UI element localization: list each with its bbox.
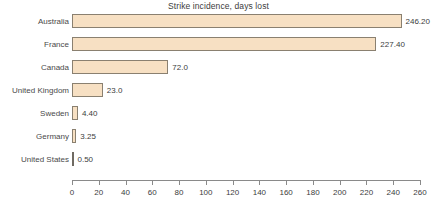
category-label: France — [0, 39, 69, 50]
bar-row: Canada72.0 — [0, 60, 437, 76]
x-axis-tick-label: 180 — [298, 187, 328, 198]
x-axis-tick-label: 20 — [84, 187, 114, 198]
bar-value-label: 246.20 — [406, 16, 430, 27]
x-axis-tick-label: 200 — [325, 187, 355, 198]
bar — [72, 83, 103, 97]
x-axis-tick-label: 0 — [57, 187, 87, 198]
bar — [72, 129, 76, 143]
x-axis-tick — [233, 180, 234, 185]
x-axis-tick — [126, 180, 127, 185]
x-axis-tick-label: 240 — [378, 187, 408, 198]
bar — [72, 106, 78, 120]
x-axis: 020406080100120140160180200220240260 — [0, 180, 437, 206]
x-axis-line — [72, 180, 421, 181]
bar-value-label: 23.0 — [107, 85, 123, 96]
bar-row: France227.40 — [0, 37, 437, 53]
x-axis-tick-label: 140 — [244, 187, 274, 198]
bar-row: Germany3.25 — [0, 129, 437, 145]
x-axis-tick — [313, 180, 314, 185]
x-axis-tick-label: 120 — [218, 187, 248, 198]
x-axis-tick — [206, 180, 207, 185]
bar-row: Sweden4.40 — [0, 106, 437, 122]
bar-row: United States0.50 — [0, 152, 437, 168]
bar-row: Australia246.20 — [0, 14, 437, 30]
x-axis-tick-label: 80 — [164, 187, 194, 198]
chart-title: Strike incidence, days lost — [0, 1, 437, 11]
bar-value-label: 72.0 — [172, 62, 188, 73]
x-axis-tick-label: 160 — [271, 187, 301, 198]
bar-value-label: 0.50 — [78, 154, 94, 165]
x-axis-tick — [179, 180, 180, 185]
category-label: United States — [0, 154, 69, 165]
bar — [72, 37, 376, 51]
x-axis-tick — [259, 180, 260, 185]
x-axis-tick-label: 260 — [405, 187, 435, 198]
bar-chart: Strike incidence, days lost Australia246… — [0, 0, 437, 206]
x-axis-tick-label: 220 — [351, 187, 381, 198]
x-axis-tick — [152, 180, 153, 185]
x-axis-tick — [366, 180, 367, 185]
x-axis-tick — [340, 180, 341, 185]
category-label: Germany — [0, 131, 69, 142]
category-label: Canada — [0, 62, 69, 73]
bar-value-label: 3.25 — [80, 131, 96, 142]
bar — [72, 60, 168, 74]
category-label: Australia — [0, 16, 69, 27]
x-axis-tick — [420, 180, 421, 185]
bar-row: United Kingdom23.0 — [0, 83, 437, 99]
bar — [72, 152, 74, 166]
bar-value-label: 4.40 — [82, 108, 98, 119]
category-label: United Kingdom — [0, 85, 69, 96]
x-axis-tick-label: 40 — [111, 187, 141, 198]
bar-value-label: 227.40 — [380, 39, 404, 50]
bar — [72, 14, 402, 28]
x-axis-tick-label: 100 — [191, 187, 221, 198]
x-axis-tick — [393, 180, 394, 185]
x-axis-tick — [286, 180, 287, 185]
x-axis-tick — [72, 180, 73, 185]
x-axis-tick — [99, 180, 100, 185]
plot-area: Australia246.20France227.40Canada72.0Uni… — [0, 14, 437, 174]
category-label: Sweden — [0, 108, 69, 119]
x-axis-tick-label: 60 — [137, 187, 167, 198]
